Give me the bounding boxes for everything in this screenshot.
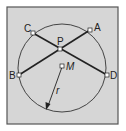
point-a-marker [88,28,92,32]
label-m: M [66,61,75,72]
label-b: B [9,70,16,81]
point-d-marker [105,73,109,77]
label-d: D [110,70,117,81]
point-b-marker [17,73,21,77]
point-c-marker [31,31,35,35]
circle-chords-diagram: C A P B D M r [0,0,126,131]
label-a: A [94,22,101,33]
label-p: P [57,36,64,47]
label-c: C [24,23,31,34]
point-p-marker [58,47,62,51]
point-m-marker [60,64,64,68]
